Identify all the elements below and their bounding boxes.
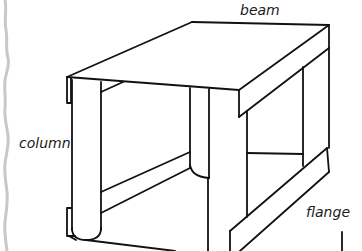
top-left-brace [101,82,123,92]
right-back-columns [247,48,329,217]
flange [230,148,329,251]
column-label: column [19,136,71,150]
flange-label: flange [306,205,350,219]
left-top-flange [67,77,71,103]
middle-column [190,88,209,178]
beam-top-surface [67,22,329,117]
left-column [72,80,101,240]
beam-label: beam [240,3,280,17]
